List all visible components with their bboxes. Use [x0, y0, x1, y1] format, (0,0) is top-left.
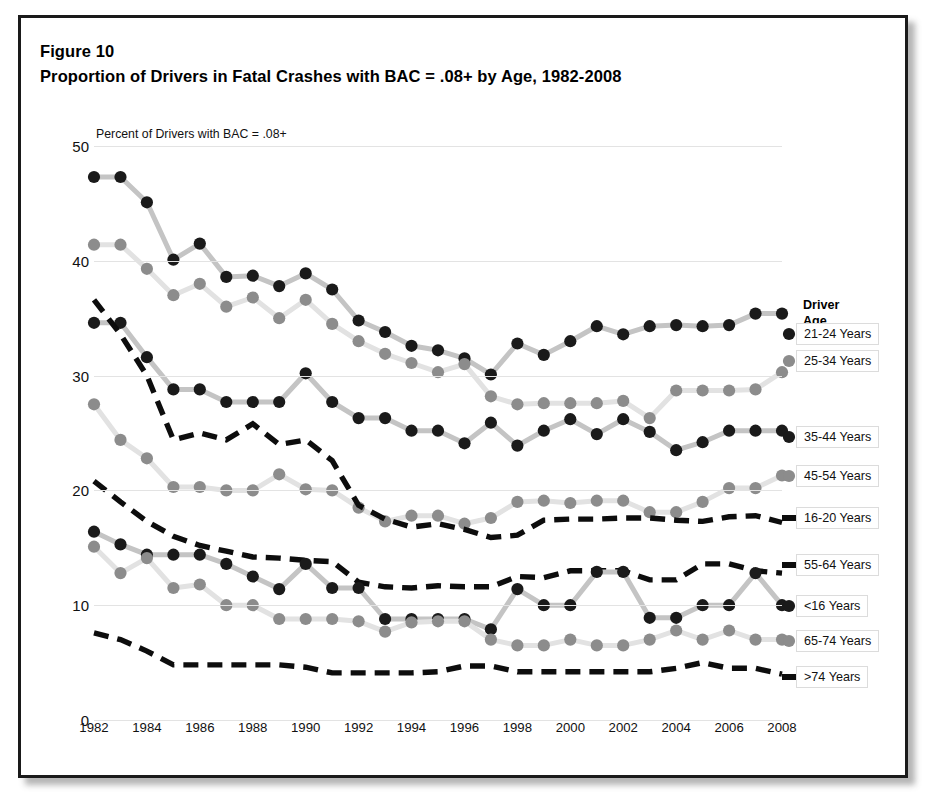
gridline-30 — [94, 376, 782, 377]
data-point — [194, 383, 206, 395]
legend-item-label: 16-20 Years — [804, 511, 871, 525]
series-line — [94, 633, 782, 674]
data-point — [88, 398, 100, 410]
data-point — [644, 412, 656, 424]
legend-item-21-24-years[interactable]: 21-24 Years — [796, 323, 879, 345]
data-point — [273, 396, 285, 408]
data-point — [538, 397, 550, 409]
data-point — [670, 506, 682, 518]
data-point — [194, 549, 206, 561]
legend-item-45-54-years[interactable]: 45-54 Years — [796, 465, 879, 487]
data-point — [670, 612, 682, 624]
data-point — [644, 320, 656, 332]
data-point — [220, 396, 232, 408]
data-point — [167, 549, 179, 561]
series-line — [94, 404, 782, 523]
legend-marker-circle-icon — [783, 470, 795, 482]
legend-marker-circle-icon — [783, 328, 795, 340]
data-point — [247, 270, 259, 282]
data-point — [405, 510, 417, 522]
data-point — [379, 626, 391, 638]
data-point — [591, 397, 603, 409]
data-point — [141, 263, 153, 275]
legend-item-25-34-years[interactable]: 25-34 Years — [796, 350, 879, 372]
series-45-54-years — [88, 398, 788, 530]
data-point — [564, 497, 576, 509]
data-point — [167, 582, 179, 594]
data-point — [141, 351, 153, 363]
legend-item-74-years[interactable]: >74 Years — [796, 666, 868, 688]
data-point — [591, 566, 603, 578]
legend-item-55-64-years[interactable]: 55-64 Years — [796, 554, 879, 576]
data-point — [511, 337, 523, 349]
legend-item-label: >74 Years — [804, 670, 860, 684]
series-74-years — [94, 633, 782, 674]
data-point — [88, 239, 100, 251]
data-point — [538, 349, 550, 361]
data-point — [141, 552, 153, 564]
series-16-20-years — [94, 481, 782, 588]
data-point — [458, 437, 470, 449]
x-axis-tick-1998: 1998 — [503, 720, 532, 735]
data-point — [485, 417, 497, 429]
data-point — [617, 495, 629, 507]
x-axis-tick-1996: 1996 — [450, 720, 479, 735]
series-line — [94, 481, 782, 588]
legend-item-label: <16 Years — [804, 599, 860, 613]
data-point — [273, 468, 285, 480]
series-65-74-years — [88, 541, 788, 652]
legend-item-label: 65-74 Years — [804, 634, 871, 648]
data-point — [353, 335, 365, 347]
data-point — [511, 440, 523, 452]
data-point — [591, 639, 603, 651]
data-point — [644, 612, 656, 624]
legend-title-line1: Driver — [803, 298, 839, 312]
data-point — [538, 639, 550, 651]
data-point — [88, 317, 100, 329]
data-point — [273, 583, 285, 595]
data-point — [697, 384, 709, 396]
legend-marker-circle-icon — [783, 431, 795, 443]
data-point — [220, 271, 232, 283]
data-point — [300, 558, 312, 570]
x-axis-tick-1982: 1982 — [79, 720, 108, 735]
legend-item-35-44-years[interactable]: 35-44 Years — [796, 426, 879, 448]
data-point — [300, 367, 312, 379]
data-point — [405, 340, 417, 352]
legend-item-16-20-years[interactable]: 16-20 Years — [796, 507, 879, 529]
data-point — [749, 482, 761, 494]
data-point — [511, 496, 523, 508]
data-point — [617, 413, 629, 425]
x-axis-tick-2006: 2006 — [714, 720, 743, 735]
data-point — [776, 308, 788, 320]
data-point — [617, 328, 629, 340]
figure-frame: Figure 10 Proportion of Drivers in Fatal… — [18, 15, 908, 778]
data-point — [88, 541, 100, 553]
data-point — [644, 426, 656, 438]
data-point — [538, 425, 550, 437]
legend-item-16-years[interactable]: <16 Years — [796, 595, 868, 617]
gridline-50 — [94, 146, 782, 147]
data-point — [273, 613, 285, 625]
data-point — [326, 396, 338, 408]
data-point — [379, 412, 391, 424]
legend-item-label: 55-64 Years — [804, 558, 871, 572]
data-point — [670, 384, 682, 396]
legend-marker-circle-icon — [783, 635, 795, 647]
data-point — [538, 495, 550, 507]
data-point — [300, 267, 312, 279]
gridline-10 — [94, 605, 782, 606]
data-point — [432, 615, 444, 627]
data-point — [723, 319, 735, 331]
data-point — [194, 238, 206, 250]
data-point — [405, 425, 417, 437]
data-point — [749, 308, 761, 320]
data-point — [353, 314, 365, 326]
data-point — [458, 358, 470, 370]
data-point — [379, 348, 391, 360]
data-point — [273, 312, 285, 324]
data-point — [723, 482, 735, 494]
data-point — [617, 566, 629, 578]
series-25-34-years — [88, 239, 788, 425]
legend-item-65-74-years[interactable]: 65-74 Years — [796, 630, 879, 652]
